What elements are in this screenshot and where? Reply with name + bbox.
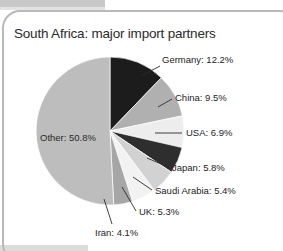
pie-label-saudi-arabia: Saudi Arabia: 5.4% [155, 185, 236, 196]
pie-slice-other [36, 57, 114, 205]
pie-label-uk: UK: 5.3% [139, 206, 180, 217]
pie-label-china: China: 9.5% [175, 92, 227, 103]
pie-label-japan: Japan: 5.8% [172, 162, 225, 173]
pie-label-usa: USA: 6.9% [186, 127, 233, 138]
pie-label-other: Other: 50.8% [40, 132, 97, 143]
pie-slice-group [36, 57, 184, 205]
chart-canvas: South Africa: major import partners Germ… [0, 0, 283, 251]
pie-label-iran: Iran: 4.1% [95, 227, 139, 238]
pie-label-germany: Germany: 12.2% [162, 54, 234, 65]
pie-chart: Germany: 12.2% China: 9.5% USA: 6.9% Jap… [0, 0, 283, 251]
